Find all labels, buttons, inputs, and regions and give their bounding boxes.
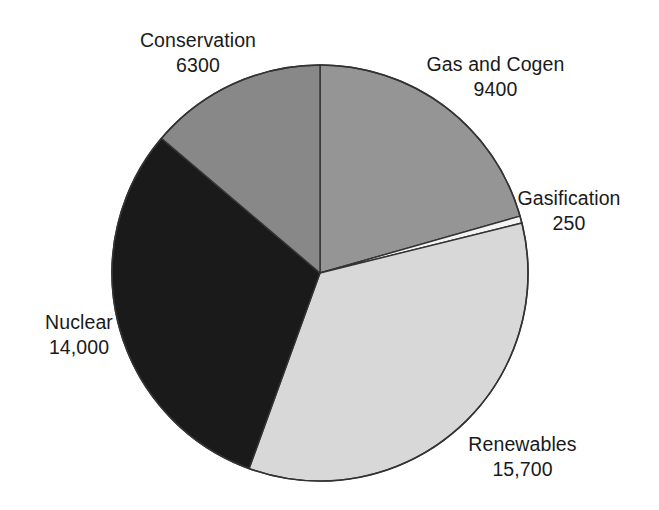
- slice-label-nuclear-name: Nuclear: [14, 310, 144, 335]
- slice-label-gas-and-cogen-name: Gas and Cogen: [408, 52, 583, 77]
- slice-label-renewables-value: 15,700: [440, 457, 605, 482]
- pie-chart-figure: Conservation 6300 Gas and Cogen 9400 Gas…: [0, 0, 659, 510]
- slice-label-conservation: Conservation 6300: [118, 28, 278, 78]
- slice-label-nuclear-value: 14,000: [14, 335, 144, 360]
- slice-label-gasification-value: 250: [494, 211, 644, 236]
- slice-label-gas-and-cogen: Gas and Cogen 9400: [408, 52, 583, 102]
- slice-label-conservation-name: Conservation: [118, 28, 278, 53]
- slice-label-conservation-value: 6300: [118, 53, 278, 78]
- slice-label-renewables: Renewables 15,700: [440, 432, 605, 482]
- slice-label-nuclear: Nuclear 14,000: [14, 310, 144, 360]
- pie-slice-group: [112, 65, 528, 481]
- slice-label-gasification: Gasification 250: [494, 186, 644, 236]
- slice-label-renewables-name: Renewables: [440, 432, 605, 457]
- slice-label-gas-and-cogen-value: 9400: [408, 77, 583, 102]
- slice-label-gasification-name: Gasification: [494, 186, 644, 211]
